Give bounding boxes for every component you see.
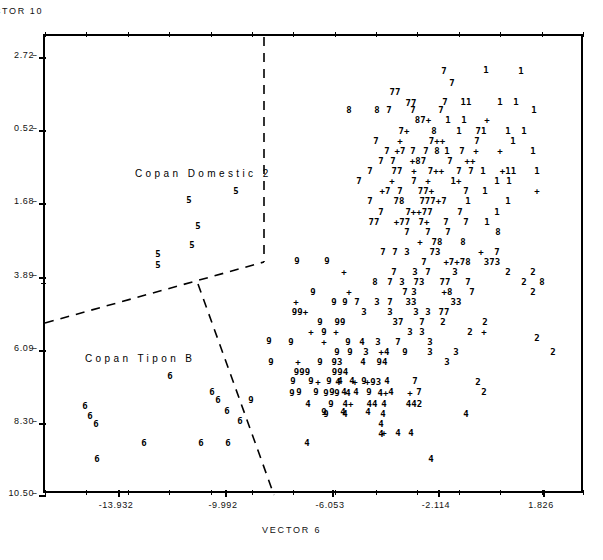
data-point: 8 bbox=[374, 106, 379, 115]
data-point: 7 bbox=[419, 318, 424, 327]
data-point: + bbox=[484, 116, 489, 125]
y-tick-major bbox=[39, 423, 46, 425]
data-point: 3 bbox=[452, 268, 457, 277]
data-point: 3 bbox=[444, 358, 449, 367]
data-point: +4 bbox=[379, 348, 390, 357]
data-point: 77 bbox=[392, 167, 403, 176]
data-point: 8 bbox=[372, 278, 377, 287]
data-point: 4+ bbox=[378, 389, 389, 398]
data-point: 2 bbox=[534, 334, 539, 343]
data-point: 2 bbox=[505, 268, 510, 277]
data-point: 9 bbox=[345, 338, 350, 347]
x-tick-label: 1.826 bbox=[528, 500, 554, 510]
data-point: 9 bbox=[323, 389, 328, 398]
data-point: 73 bbox=[414, 278, 425, 287]
data-point: 3 bbox=[399, 278, 404, 287]
data-point: 9 bbox=[290, 377, 295, 386]
data-point: 4 bbox=[365, 408, 370, 417]
x-tick-bottom bbox=[169, 490, 170, 495]
x-tick-bottom bbox=[459, 490, 460, 495]
data-point: 7 bbox=[410, 106, 415, 115]
data-point: 7 bbox=[412, 377, 417, 386]
data-point: 9 bbox=[331, 298, 336, 307]
data-point: 1 bbox=[483, 66, 488, 75]
data-point: 9 bbox=[317, 318, 322, 327]
y-tick-major bbox=[39, 495, 46, 497]
data-point: 9 bbox=[268, 358, 273, 367]
data-point: 9 bbox=[334, 348, 339, 357]
x-tick-label: -2.114 bbox=[422, 500, 450, 510]
x-tick-major bbox=[543, 490, 545, 497]
data-point: 6 bbox=[94, 455, 99, 464]
data-point: 7 bbox=[449, 79, 454, 88]
data-point: + bbox=[293, 298, 298, 307]
data-point: 4 bbox=[395, 429, 400, 438]
x-tick-major bbox=[225, 490, 227, 497]
x-tick-bottom bbox=[583, 490, 584, 495]
data-point: 3 bbox=[363, 348, 368, 357]
data-point: 1 bbox=[521, 127, 526, 136]
x-tick-major bbox=[332, 490, 334, 497]
data-point: 6 bbox=[87, 412, 92, 421]
x-tick-top bbox=[293, 32, 294, 37]
data-point: 2 bbox=[467, 328, 472, 337]
data-point: 4 bbox=[388, 388, 393, 397]
data-point: 4 bbox=[463, 410, 468, 419]
x-axis-title: VECTOR 6 bbox=[262, 525, 321, 535]
data-point: 7 bbox=[425, 228, 430, 237]
x-tick-top bbox=[45, 32, 46, 37]
data-point: + bbox=[315, 378, 320, 387]
data-point: 2 bbox=[550, 348, 555, 357]
data-point: 6 bbox=[237, 417, 242, 426]
x-tick-top bbox=[128, 32, 129, 37]
x-tick-bottom bbox=[86, 490, 87, 495]
data-point: 7 bbox=[468, 167, 473, 176]
data-point: 3 bbox=[361, 308, 366, 317]
data-point: 1 bbox=[444, 147, 449, 156]
data-point: 9 bbox=[308, 377, 313, 386]
data-point: 9 bbox=[402, 348, 407, 357]
x-tick-bottom bbox=[417, 490, 418, 495]
data-point: 7+ bbox=[399, 127, 410, 136]
data-point: 9 bbox=[324, 257, 329, 266]
data-point: 5 bbox=[155, 261, 160, 270]
x-tick-bottom bbox=[128, 490, 129, 495]
data-point: 3 bbox=[374, 298, 379, 307]
cluster-label: Copan Domestic 2 bbox=[135, 168, 272, 179]
data-point: 373 bbox=[484, 258, 500, 267]
data-point: 7 bbox=[373, 137, 378, 146]
x-tick-top bbox=[459, 32, 460, 37]
cluster-boundaries bbox=[45, 36, 585, 495]
data-point: 77 bbox=[390, 88, 401, 97]
data-point: 5 bbox=[233, 187, 238, 196]
data-point: 3 bbox=[404, 248, 409, 257]
data-point: 1 bbox=[465, 197, 470, 206]
cluster-label: Copan Tipon B bbox=[85, 353, 195, 364]
data-point: 9 bbox=[328, 400, 333, 409]
data-point: 7 bbox=[390, 157, 395, 166]
data-point: +7 bbox=[380, 187, 391, 196]
x-tick-bottom bbox=[252, 490, 253, 495]
y-tick-dash: -- bbox=[32, 416, 36, 426]
data-point: + bbox=[411, 167, 416, 176]
data-point: 33 bbox=[451, 298, 462, 307]
data-point: 99 bbox=[335, 318, 346, 327]
data-point: 1 bbox=[445, 116, 450, 125]
data-point: 7 bbox=[367, 167, 372, 176]
data-point: + bbox=[478, 248, 483, 257]
data-point: 3 bbox=[387, 308, 392, 317]
figure-root: CTOR 10 VECTOR 6 -13.932-9.992-6.053-2.1… bbox=[0, 0, 603, 560]
data-point: 94 bbox=[377, 358, 388, 367]
x-tick-bottom bbox=[376, 490, 377, 495]
data-point: +87 bbox=[410, 157, 426, 166]
x-tick-major bbox=[118, 490, 120, 497]
data-point: 5 bbox=[186, 196, 191, 205]
data-point: 77+ bbox=[418, 187, 434, 196]
data-point: 9 bbox=[310, 288, 315, 297]
data-point: 1 bbox=[484, 218, 489, 227]
y-tick-minor bbox=[41, 283, 46, 284]
data-point: 1 bbox=[482, 187, 487, 196]
data-point: 2 bbox=[475, 378, 480, 387]
x-tick-top bbox=[500, 32, 501, 37]
data-point: 9 bbox=[296, 388, 301, 397]
